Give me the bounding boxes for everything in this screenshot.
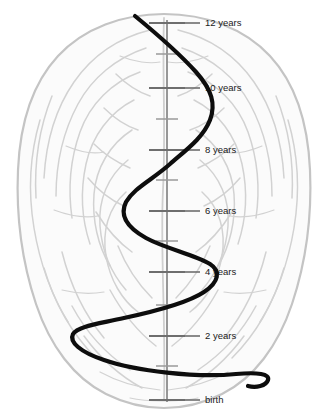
brain-development-figure: 12 years10 years8 years6 years4 years2 y… (0, 0, 329, 417)
tick-label-6-years: 6 years (205, 205, 236, 216)
tick-label-8-years: 8 years (205, 144, 236, 155)
brain-illustration: 12 years10 years8 years6 years4 years2 y… (0, 0, 329, 417)
tick-label-12-years: 12 years (205, 17, 242, 28)
tick-label-4-years: 4 years (205, 266, 236, 277)
tick-label-birth: birth (205, 394, 223, 405)
tick-label-2-years: 2 years (205, 330, 236, 341)
